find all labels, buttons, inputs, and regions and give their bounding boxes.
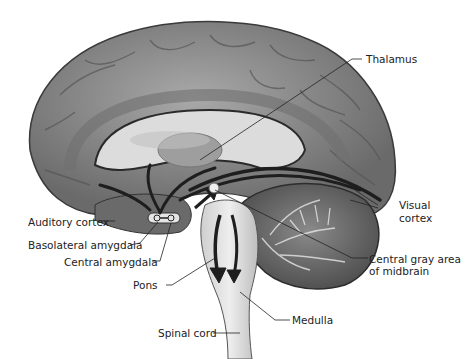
label-medulla: Medulla [292,314,333,326]
label-pons: Pons [133,279,158,291]
label-auditory-cortex: Auditory cortex [28,216,109,228]
label-central-gray-line2: of midbrain [369,265,429,277]
brain-diagram: Thalamus Visual cortex Auditory cortex B… [0,0,466,359]
label-visual-cortex-line2: cortex [399,212,432,224]
label-thalamus: Thalamus [366,53,417,65]
label-spinal-cord: Spinal cord [158,327,217,339]
label-central-gray-line1: Central gray area [369,253,461,265]
label-basolateral-amygdala: Basolateral amygdala [28,239,142,251]
label-visual-cortex-line1: Visual [399,199,430,211]
label-central-amygdala: Central amygdala [64,256,158,268]
